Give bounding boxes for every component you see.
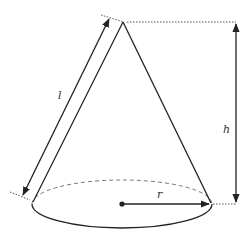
cone-diagram: l h r <box>0 0 248 234</box>
slant-label: l <box>58 89 62 102</box>
radius-label: r <box>157 188 163 201</box>
base-ellipse-front <box>32 204 212 228</box>
apex-extension-top <box>101 15 124 22</box>
height-label: h <box>223 123 230 136</box>
base-ellipse-back <box>32 180 212 204</box>
cone-right-side <box>123 22 211 203</box>
cone-left-side <box>33 22 123 202</box>
slant-height-arrow <box>23 19 109 195</box>
base-extension-left <box>10 192 30 200</box>
